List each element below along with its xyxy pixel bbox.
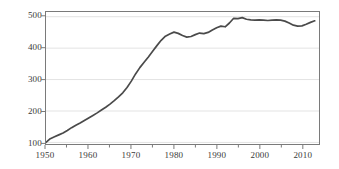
x-tick-label: 1950: [25, 150, 65, 160]
x-tick-label: 1990: [197, 150, 237, 160]
x-tick-label: 2010: [283, 150, 323, 160]
x-tick-label: 2000: [240, 150, 280, 160]
x-tick-label: 1980: [154, 150, 194, 160]
x-tick-label: 1960: [68, 150, 108, 160]
line-chart: 100200300400500 195019601970198019902000…: [0, 0, 339, 169]
x-tick-label: 1970: [111, 150, 151, 160]
x-axis: 1950196019701980199020002010: [0, 0, 339, 169]
